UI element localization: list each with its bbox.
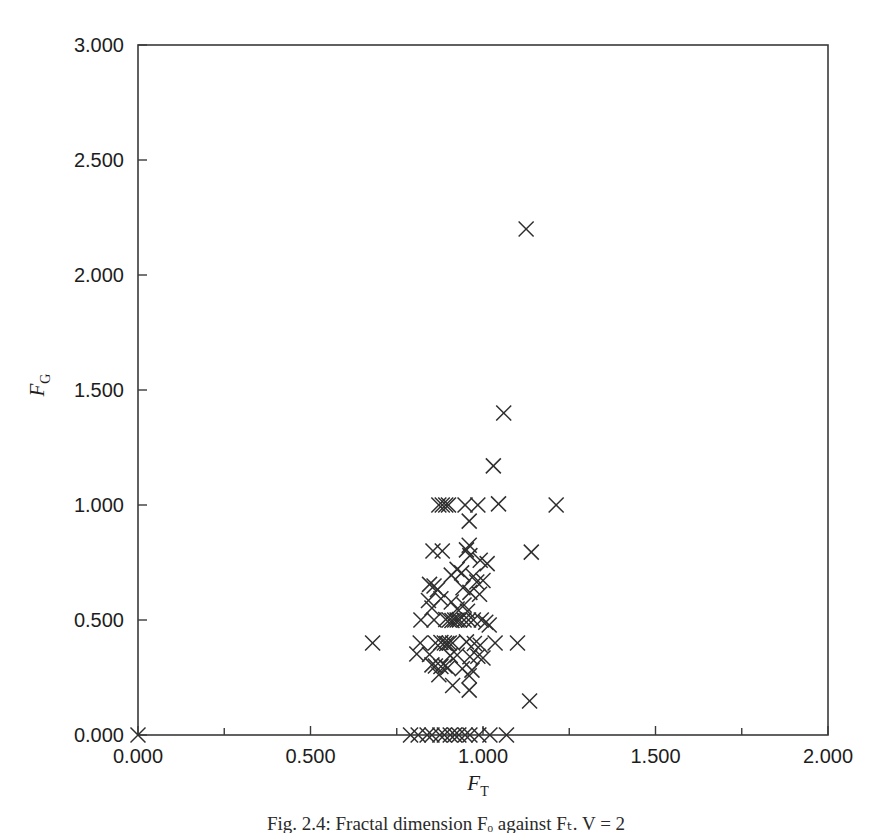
x-tick-label: 1.500 xyxy=(630,745,680,767)
data-point xyxy=(409,647,424,662)
data-point xyxy=(522,693,537,708)
data-point xyxy=(470,649,485,664)
x-tick-label: 0.500 xyxy=(285,745,335,767)
data-point xyxy=(425,544,440,559)
data-point xyxy=(462,668,477,683)
y-tick-label: 3.000 xyxy=(74,34,124,56)
data-point xyxy=(435,544,450,559)
y-axis-title: FG xyxy=(25,374,53,398)
data-point xyxy=(519,222,534,237)
y-tick-label: 1.000 xyxy=(74,494,124,516)
data-point xyxy=(472,587,487,602)
svg-text:FT: FT xyxy=(466,771,489,799)
data-point xyxy=(464,663,479,678)
data-point xyxy=(445,678,460,693)
y-tick-label: 2.000 xyxy=(74,264,124,286)
x-tick-labels: 0.0000.5001.0001.5002.000 xyxy=(113,745,853,767)
data-point xyxy=(454,565,469,580)
y-tick-labels: 0.0000.5001.0001.5002.0002.5003.000 xyxy=(74,34,124,746)
y-tick-label: 0.500 xyxy=(74,609,124,631)
data-point xyxy=(467,636,482,651)
y-tick-label: 1.500 xyxy=(74,379,124,401)
figure-caption: Fig. 2.4: Fractal dimension Fₒ against F… xyxy=(0,811,892,833)
data-point xyxy=(462,514,477,529)
data-point xyxy=(459,542,474,557)
data-point xyxy=(524,545,539,560)
data-point xyxy=(491,496,506,511)
data-point xyxy=(413,613,428,628)
data-point xyxy=(549,498,564,513)
x-tick-label: 0.000 xyxy=(113,745,163,767)
data-point xyxy=(496,406,511,421)
data-point xyxy=(480,556,495,571)
y-tick-label: 2.500 xyxy=(74,149,124,171)
svg-text:FG: FG xyxy=(25,374,53,398)
data-markers xyxy=(131,222,564,743)
data-point xyxy=(474,613,489,628)
data-point xyxy=(486,458,501,473)
x-tick-label: 2.000 xyxy=(803,745,853,767)
x-tick-label: 1.000 xyxy=(458,745,508,767)
data-point xyxy=(488,636,503,651)
data-point xyxy=(473,638,488,653)
data-point xyxy=(365,636,380,651)
y-tick-label: 0.000 xyxy=(74,724,124,746)
data-point xyxy=(413,636,428,651)
data-point xyxy=(438,498,453,513)
data-point xyxy=(470,498,485,513)
data-point xyxy=(462,683,477,698)
data-point xyxy=(476,650,491,665)
x-axis-title: FT xyxy=(466,771,489,799)
data-point xyxy=(458,498,473,513)
data-point xyxy=(510,636,525,651)
